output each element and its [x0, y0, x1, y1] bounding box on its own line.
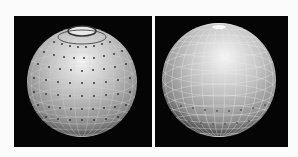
left-sphere-panel: [14, 16, 152, 147]
top-highlight: [212, 25, 226, 29]
right-sphere-image: [155, 16, 288, 147]
sphere-body: [162, 23, 276, 137]
right-sphere-panel: [155, 16, 288, 147]
left-sphere-image: [14, 16, 152, 147]
